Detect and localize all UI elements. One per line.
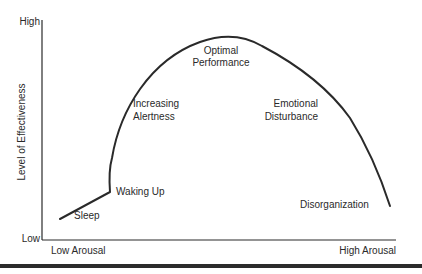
stage-label-optimal-performance: Optimal Performance [176, 45, 266, 68]
y-axis-low-label: Low [10, 233, 40, 244]
stage-label-line: Emotional [250, 98, 318, 109]
stage-label-line: Increasing [133, 98, 179, 109]
bottom-rule [0, 264, 422, 268]
stage-label-disorganization: Disorganization [300, 199, 369, 210]
stage-label-waking-up: Waking Up [116, 186, 165, 197]
diagram-canvas [0, 0, 422, 274]
y-axis-title: Level of Effectiveness [16, 83, 27, 180]
stage-label-line: Alertness [133, 111, 179, 122]
stage-label-sleep: Sleep [74, 210, 100, 221]
stage-label-emotional-disturbance: Emotional Disturbance [250, 98, 318, 122]
x-axis-high-label: High Arousal [300, 245, 396, 256]
y-axis-high-label: High [14, 16, 40, 27]
stage-label-line: Optimal [176, 45, 266, 56]
x-axis-low-label: Low Arousal [51, 245, 105, 256]
stage-label-line: Performance [176, 57, 266, 68]
stage-label-line: Disturbance [250, 111, 318, 122]
stage-label-increasing-alertness: Increasing Alertness [133, 98, 179, 122]
